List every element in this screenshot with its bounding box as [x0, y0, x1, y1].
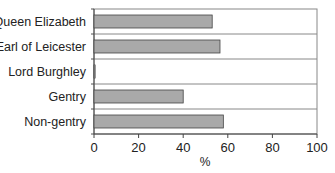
bar-non-gentry: [94, 115, 223, 128]
category-label: Non-gentry: [24, 115, 87, 129]
bar-queen-elizabeth: [94, 15, 212, 28]
category-label: Gentry: [48, 90, 86, 104]
x-tick-label: 100: [306, 140, 328, 155]
category-label: Lord Burghley: [8, 65, 87, 79]
x-tick-label: 20: [131, 140, 145, 155]
x-tick-label: 60: [221, 140, 235, 155]
x-tick-label: 40: [176, 140, 190, 155]
x-tick-label: 80: [265, 140, 279, 155]
category-label: Queen Elizabeth: [0, 15, 86, 29]
category-label: Earl of Leicester: [0, 40, 86, 54]
bar-earl-of-leicester: [94, 40, 220, 53]
bar-gentry: [94, 90, 183, 103]
bar-chart: Queen ElizabethEarl of LeicesterLord Bur…: [0, 0, 335, 173]
x-axis-label: %: [200, 155, 211, 169]
bar-lord-burghley: [94, 65, 95, 78]
x-tick-label: 0: [90, 140, 97, 155]
